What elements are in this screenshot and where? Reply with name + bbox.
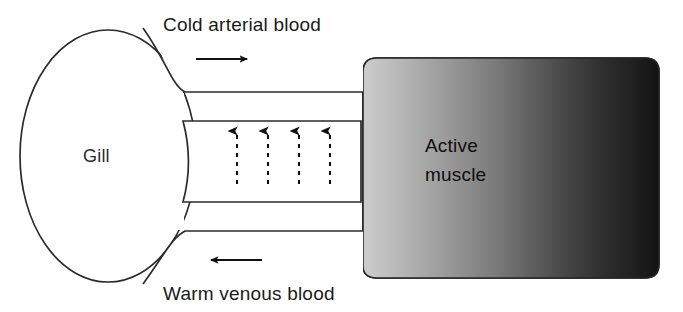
- venous-vessel: [143, 231, 363, 284]
- label-active-muscle-line2: muscle: [425, 164, 486, 185]
- label-gill: Gill: [83, 146, 110, 166]
- label-warm-venous-blood: Warm venous blood: [163, 283, 335, 304]
- active-muscle-shape: [363, 58, 659, 278]
- arterial-vessel: [143, 28, 363, 92]
- label-cold-arterial-blood: Cold arterial blood: [163, 14, 321, 35]
- diagram-canvas: Cold arterial blood Warm venous blood Gi…: [0, 0, 683, 312]
- heat-exchange-channel: [183, 121, 361, 202]
- label-active-muscle-line1: Active: [425, 135, 478, 156]
- diagram-countercurrent-heat-exchange: Cold arterial blood Warm venous blood Gi…: [0, 0, 683, 312]
- gill-neck-fill: [150, 93, 184, 230]
